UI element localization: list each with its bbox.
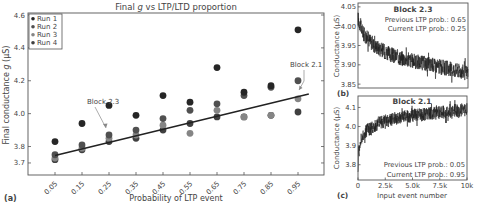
legend-marker bbox=[31, 17, 35, 21]
data-point bbox=[187, 130, 194, 137]
y-tick-label: 3.9 bbox=[345, 142, 356, 150]
panel-c-previous-prob: Previous LTP prob.: 0.05 bbox=[384, 161, 465, 169]
panel-c-current-prob: Current LTP prob.: 0.95 bbox=[387, 171, 465, 179]
data-point bbox=[79, 120, 86, 127]
data-point bbox=[106, 132, 113, 139]
panel-a-y-axis-label: Final conductance g (μS) bbox=[2, 46, 11, 145]
data-point bbox=[214, 100, 221, 107]
y-tick-label: 3.8 bbox=[14, 143, 25, 151]
data-point bbox=[295, 77, 302, 84]
x-tick-label: 0.15 bbox=[70, 180, 87, 197]
data-point bbox=[214, 107, 221, 114]
x-tick-label: 0.75 bbox=[232, 180, 249, 197]
data-point bbox=[295, 26, 302, 33]
panel-b-y-axis-label: Conductance (μS) bbox=[333, 14, 341, 77]
y-tick-label: 3.8 bbox=[345, 161, 356, 169]
panel-a-x-axis-label: Probability of LTP event bbox=[129, 194, 222, 203]
data-point bbox=[133, 112, 140, 119]
y-tick-label: 3.85 bbox=[341, 81, 356, 89]
legend-entry: Run 3 bbox=[37, 31, 57, 39]
legend-entry: Run 4 bbox=[37, 39, 58, 47]
y-tick-label: 3.95 bbox=[341, 42, 356, 50]
data-point bbox=[160, 115, 167, 122]
data-point bbox=[79, 141, 86, 148]
data-point bbox=[295, 109, 302, 116]
panel-c-x-axis-label: Input event number bbox=[377, 192, 447, 200]
x-tick-label: 7.5k bbox=[432, 182, 447, 190]
data-point bbox=[160, 122, 167, 129]
y-tick-label: 4.1 bbox=[345, 104, 356, 112]
panel-a-label: (a) bbox=[4, 194, 17, 203]
panel-b-current-prob: Current LTP prob.: 0.25 bbox=[388, 25, 466, 33]
panel-a-x-ticks: 0.050.150.250.350.450.550.650.750.850.95 bbox=[43, 172, 303, 196]
y-tick-label: 4.05 bbox=[341, 3, 356, 11]
panel-b-label: (b) bbox=[337, 89, 349, 98]
data-point bbox=[133, 127, 140, 134]
data-point bbox=[268, 112, 275, 119]
panel-b-previous-prob: Previous LTP prob.: 0.65 bbox=[385, 16, 466, 24]
data-point bbox=[187, 107, 194, 114]
data-point bbox=[187, 99, 194, 106]
legend-marker bbox=[31, 33, 35, 37]
data-point bbox=[241, 89, 248, 96]
legend-marker bbox=[31, 41, 35, 45]
panel-b-line-plot: 3.853.903.954.004.05 Block 2.3 Previous … bbox=[333, 3, 468, 98]
x-tick-label: 0.05 bbox=[43, 180, 60, 197]
data-point bbox=[52, 138, 59, 145]
figure: Final g vs LTP/LTD proportion 3.73.84.04… bbox=[0, 0, 478, 206]
x-tick-label: 10k bbox=[461, 182, 474, 190]
y-tick-label: 3.7 bbox=[14, 159, 25, 167]
y-tick-label: 4.00 bbox=[341, 23, 356, 31]
y-tick-label: 4.4 bbox=[14, 44, 26, 52]
data-point bbox=[160, 92, 167, 99]
panel-c-y-axis-label: Conductance (μS) bbox=[333, 106, 341, 169]
data-point bbox=[241, 114, 248, 121]
panel-c-title: Block 2.1 bbox=[393, 97, 432, 106]
panel-a-title: Final g vs LTP/LTD proportion bbox=[115, 2, 237, 12]
panel-a-scatter-plot: Final g vs LTP/LTD proportion 3.73.84.04… bbox=[2, 2, 324, 203]
annotation-block-2-3: Block 2.3 bbox=[87, 98, 119, 106]
y-tick-label: 4.2 bbox=[14, 77, 25, 85]
y-tick-label: 4.0 bbox=[345, 123, 356, 131]
legend-entry: Run 2 bbox=[37, 23, 57, 31]
x-tick-label: 0.95 bbox=[286, 180, 303, 197]
y-tick-label: 4.6 bbox=[14, 12, 26, 20]
panel-a-legend: Run 1Run 2Run 3Run 4 bbox=[29, 14, 62, 49]
panel-b-title: Block 2.3 bbox=[394, 5, 433, 14]
panel-c-line-plot: 3.83.94.04.1 02.5k5.0k7.5k10k Block 2.1 … bbox=[333, 96, 473, 200]
data-point bbox=[268, 82, 275, 89]
x-tick-label: 2.5k bbox=[378, 182, 393, 190]
legend-marker bbox=[31, 25, 35, 29]
annotation-block-2-1: Block 2.1 bbox=[290, 61, 322, 69]
x-tick-label: 5.0k bbox=[405, 182, 420, 190]
data-point bbox=[214, 64, 221, 71]
panel-c-label: (c) bbox=[337, 191, 348, 200]
x-tick-label: 0.85 bbox=[259, 180, 276, 197]
x-tick-label: 0 bbox=[356, 182, 360, 190]
legend-entry: Run 1 bbox=[37, 15, 57, 23]
y-tick-label: 4.0 bbox=[14, 110, 25, 118]
y-tick-label: 3.90 bbox=[341, 61, 356, 69]
x-tick-label: 0.25 bbox=[97, 180, 114, 197]
